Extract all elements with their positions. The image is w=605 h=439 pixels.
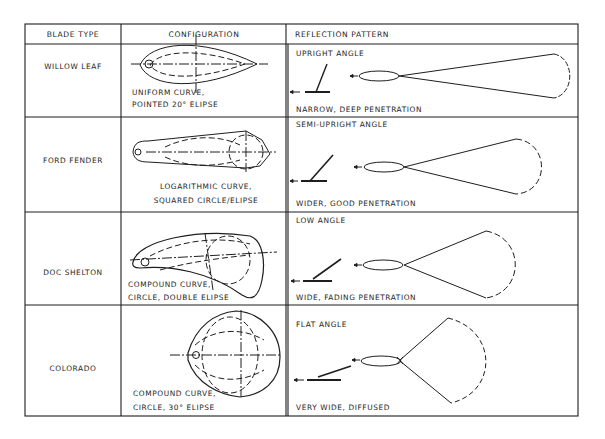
blade-type-label: DOC SHELTON xyxy=(43,268,103,277)
configuration-line2: CIRCLE, 30° ELIPSE xyxy=(133,403,215,412)
colorado-blade-icon xyxy=(170,310,282,397)
angle-label: SEMI-UPRIGHT ANGLE xyxy=(296,120,388,129)
flat-angle-reflection-icon xyxy=(294,318,486,403)
pattern-label: WIDE, FADING PENETRATION xyxy=(296,293,416,302)
pattern-label: NARROW, DEEP PENETRATION xyxy=(296,105,422,114)
header-reflection-pattern: REFLECTION PATTERN xyxy=(295,30,389,39)
blade-type-label: WILLOW LEAF xyxy=(44,62,102,71)
semi-upright-angle-reflection-icon xyxy=(290,139,542,194)
blade-type-label: FORD FENDER xyxy=(43,156,103,165)
configuration-line1: LOGARITHMIC CURVE, xyxy=(160,182,252,191)
angle-label: FLAT ANGLE xyxy=(296,320,347,329)
ford-fender-blade-icon xyxy=(133,131,276,172)
blade-reflection-table: BLADE TYPE CONFIGURATION REFLECTION PATT… xyxy=(0,0,605,439)
configuration-line2: CIRCLE, DOUBLE ELIPSE xyxy=(128,293,229,302)
header-blade-type: BLADE TYPE xyxy=(47,30,100,39)
angle-label: UPRIGHT ANGLE xyxy=(296,49,364,58)
configuration-line1: COMPOUND CURVE, xyxy=(133,389,216,398)
angle-label: LOW ANGLE xyxy=(296,216,346,225)
pattern-label: WIDER, GOOD PENETRATION xyxy=(296,199,416,208)
header-configuration: CONFIGURATION xyxy=(169,30,240,39)
configuration-line1: UNIFORM CURVE, xyxy=(132,88,205,97)
upright-angle-reflection-icon xyxy=(290,54,570,98)
low-angle-reflection-icon xyxy=(291,231,515,298)
pattern-label: VERY WIDE, DIFFUSED xyxy=(296,403,390,412)
configuration-line2: SQUARED CIRCLE/ELIPSE xyxy=(154,196,259,205)
configuration-line2: POINTED 20° ELIPSE xyxy=(132,100,218,109)
configuration-line1: COMPOUND CURVE, xyxy=(128,280,211,289)
blade-type-label: COLORADO xyxy=(50,364,97,373)
